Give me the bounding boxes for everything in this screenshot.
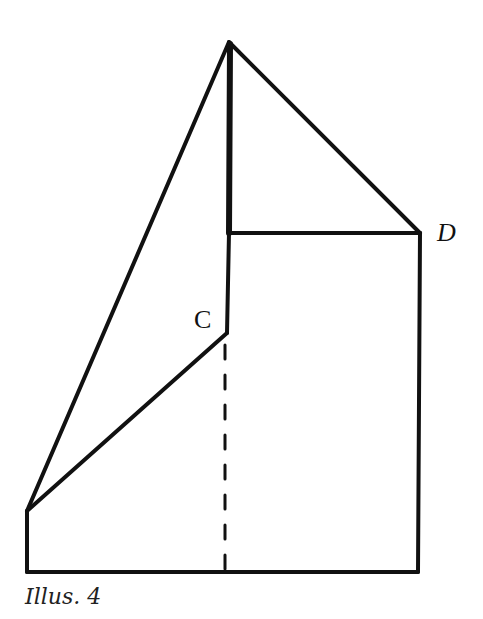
label-c: C (194, 305, 211, 335)
figure-caption: Illus. 4 (25, 584, 101, 609)
edge-vertical-to-c (227, 233, 229, 333)
edge-apex-c-vertical (229, 44, 230, 233)
folding-diagram (0, 0, 483, 619)
edge-c-left (27, 333, 227, 511)
label-d: D (437, 218, 456, 248)
edge-apex-left (27, 42, 229, 511)
edge-apex-d (229, 42, 420, 233)
edge-right-side (418, 233, 420, 572)
